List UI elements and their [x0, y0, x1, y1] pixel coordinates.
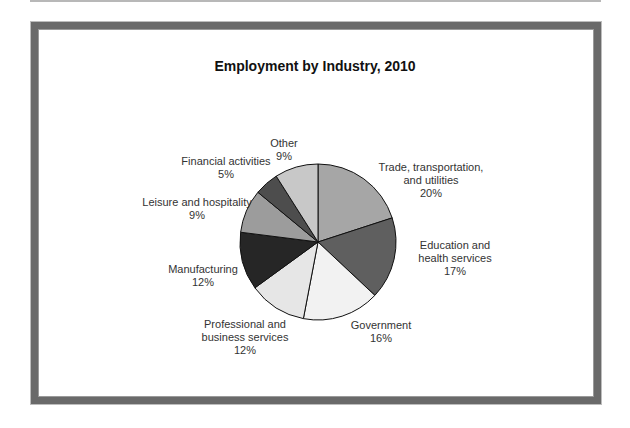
label-value: 12%	[202, 344, 289, 357]
label-line: Other	[270, 137, 298, 150]
label-government: Government 16%	[351, 319, 412, 345]
label-line: Government	[351, 319, 412, 332]
label-professional: Professional and business services 12%	[202, 318, 289, 357]
label-value: 17%	[418, 265, 491, 278]
label-line: Financial activities	[181, 155, 270, 168]
label-line: Education and	[418, 239, 491, 252]
label-line: Professional and	[202, 318, 289, 331]
label-value: 16%	[351, 332, 412, 345]
label-line: Manufacturing	[168, 263, 238, 276]
label-value: 9%	[142, 209, 251, 222]
label-manufacturing: Manufacturing 12%	[168, 263, 238, 289]
label-line: and utilities	[379, 174, 484, 187]
label-line: Trade, transportation,	[379, 161, 484, 174]
label-financial: Financial activities 5%	[181, 155, 270, 181]
label-line: Leisure and hospitality	[142, 196, 251, 209]
pie-chart	[0, 0, 630, 428]
label-value: 9%	[270, 150, 298, 163]
label-education: Education and health services 17%	[418, 239, 491, 278]
label-value: 5%	[181, 168, 270, 181]
label-line: business services	[202, 331, 289, 344]
label-leisure: Leisure and hospitality 9%	[142, 196, 251, 222]
label-line: health services	[418, 252, 491, 265]
label-other: Other 9%	[270, 137, 298, 163]
label-trade: Trade, transportation, and utilities 20%	[379, 161, 484, 200]
label-value: 12%	[168, 276, 238, 289]
label-value: 20%	[379, 187, 484, 200]
